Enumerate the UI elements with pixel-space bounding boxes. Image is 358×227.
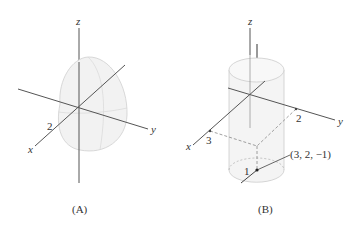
figure-b: z y x 3 2 1 (3, 2, −1) (B): [185, 15, 343, 216]
diagram-canvas: z y x 2 (A) z y x 3 2 1 (3, 2, −1) (B): [0, 0, 358, 227]
point-marker: [255, 168, 258, 171]
y-tick-mark: [295, 108, 297, 110]
x-axis-label: x: [27, 143, 33, 155]
figure-a: z y x 2 (A): [18, 15, 156, 216]
z-axis-label: z: [75, 15, 81, 27]
caption-a: (A): [72, 203, 88, 216]
caption-b: (B): [258, 203, 273, 216]
x-tick-mark: [209, 130, 211, 132]
hemisphere-surface: [58, 57, 127, 151]
z-axis-label: z: [247, 15, 253, 27]
y-axis-label: y: [337, 115, 343, 127]
cylinder-surface: [229, 70, 284, 182]
x-tick-label: 3: [206, 134, 212, 146]
x-axis-label: x: [185, 140, 191, 152]
point-label: (3, 2, −1): [290, 148, 331, 161]
radius-label: 1: [244, 165, 250, 177]
y-axis-label: y: [150, 123, 156, 135]
y-tick-label: 2: [296, 112, 302, 124]
x-tick-label: 2: [47, 120, 53, 132]
cylinder-top: [229, 58, 284, 82]
